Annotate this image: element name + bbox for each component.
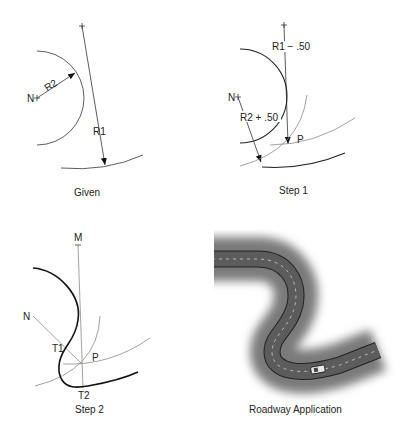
label-m: M [74, 232, 82, 243]
offset-arc-r1 [63, 338, 150, 364]
n-to-p-line [33, 316, 82, 364]
label-p: P [92, 352, 99, 363]
label-n: N [228, 92, 235, 103]
caption-step2: Step 2 [75, 404, 104, 415]
label-t1: T1 [52, 343, 64, 354]
caption-roadway: Roadway Application [249, 404, 342, 415]
tangent-arcs-figure: N R2 R1 Given R1 − .50 R2 + .50 N P Step… [0, 0, 396, 431]
caption-step1: Step 1 [279, 185, 308, 196]
panel-step1: R1 − .50 R2 + .50 N P Step 1 [228, 22, 355, 196]
label-n: N [23, 311, 30, 322]
label-t2: T2 [78, 390, 90, 401]
label-r1: R1 [93, 126, 106, 137]
r2-arc-heavy [240, 49, 287, 143]
label-n: N [27, 93, 34, 104]
panel-step2: M N T1 P T2 Step 2 [23, 232, 150, 415]
offset-arc-r1 [270, 118, 355, 145]
panel-given: N R2 R1 Given [27, 23, 143, 198]
label-p: P [297, 134, 304, 145]
r1-arc-heavy [262, 153, 345, 167]
panel-roadway: Roadway Application [205, 259, 378, 415]
tangent-curve [33, 268, 138, 387]
offset-arc-r2 [35, 316, 100, 386]
label-r2: R2 [42, 77, 59, 93]
caption-given: Given [74, 187, 100, 198]
r1-arc [61, 155, 143, 169]
r2-arc [37, 51, 84, 145]
r1-radius-line [82, 26, 105, 165]
label-r1-offset: R1 − .50 [272, 41, 311, 52]
r2-offset-line [238, 97, 261, 162]
label-r2-offset: R2 + .50 [240, 112, 279, 123]
